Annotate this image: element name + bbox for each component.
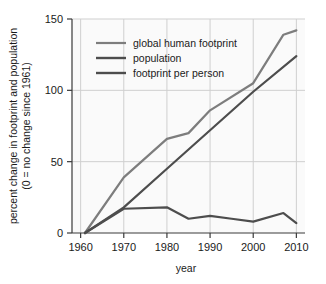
y-axis-label-line2: (0 = no change since 1961) <box>20 62 32 190</box>
y-tick-label: 50 <box>51 156 63 168</box>
y-axis-label-line1: percent change in footprint and populati… <box>7 28 19 224</box>
x-tick-label: 1990 <box>198 241 222 253</box>
x-tick-label: 2000 <box>241 241 265 253</box>
legend-label-footprint-per-person: footprint per person <box>133 67 224 79</box>
legend-label-global-human-footprint: global human footprint <box>133 37 237 49</box>
chart-figure: 050100150 196019701980199020002010 globa… <box>0 0 326 284</box>
y-tick-label: 100 <box>45 84 63 96</box>
y-tick-label: 150 <box>45 13 63 25</box>
y-tick-label: 0 <box>57 227 63 239</box>
x-tick-label: 1970 <box>112 241 136 253</box>
x-tick-label: 1980 <box>155 241 179 253</box>
x-tick-label: 1960 <box>68 241 92 253</box>
legend-label-population: population <box>133 52 182 64</box>
x-axis-label: year <box>176 262 197 274</box>
x-tick-label: 2010 <box>284 241 308 253</box>
line-chart: 050100150 196019701980199020002010 globa… <box>0 0 326 284</box>
